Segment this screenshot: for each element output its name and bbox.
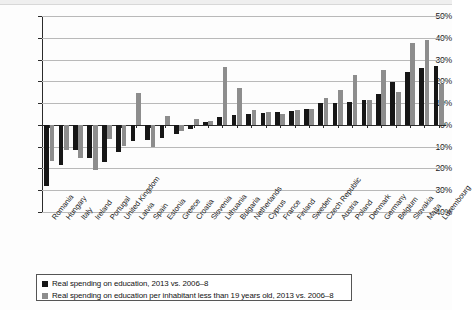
bar	[425, 40, 430, 125]
bar	[102, 125, 107, 162]
bar	[376, 94, 381, 124]
bar	[434, 66, 439, 125]
bar-group	[100, 16, 114, 212]
bar	[237, 88, 242, 125]
bar	[338, 90, 343, 125]
bar-group	[230, 16, 244, 212]
bar	[318, 103, 323, 125]
legend-item-gray: Real spending on education per inhabitan…	[42, 290, 346, 301]
bar	[353, 75, 358, 125]
bar	[203, 122, 208, 125]
bar	[179, 125, 184, 132]
bar	[78, 125, 83, 158]
bar	[367, 100, 372, 125]
bar-group	[172, 16, 186, 212]
bar	[160, 125, 165, 138]
bar	[289, 111, 294, 125]
bar-group	[244, 16, 258, 212]
bar	[131, 125, 136, 141]
chart-legend: Real spending on education, 2013 vs. 200…	[36, 274, 352, 301]
legend-swatch-icon	[42, 281, 48, 287]
bar	[44, 125, 49, 186]
top-rule	[0, 0, 452, 5]
bar	[93, 125, 98, 170]
bar-group	[215, 16, 229, 212]
bar-group	[388, 16, 402, 212]
bar	[50, 125, 55, 161]
bar	[136, 93, 141, 125]
bar	[252, 110, 257, 125]
bar	[266, 112, 271, 125]
legend-label: Real spending on education, 2013 vs. 200…	[52, 279, 208, 288]
bar-group	[374, 16, 388, 212]
bar	[304, 109, 309, 125]
bar-group	[359, 16, 373, 212]
bar	[223, 67, 228, 125]
bar-group	[201, 16, 215, 212]
bar-group	[302, 16, 316, 212]
bar	[295, 110, 300, 125]
bar	[381, 70, 386, 124]
bar-group	[71, 16, 85, 212]
bar-group	[316, 16, 330, 212]
bar	[145, 125, 150, 140]
bar	[217, 117, 222, 125]
bar	[122, 125, 127, 146]
bar	[107, 125, 112, 139]
bar	[246, 114, 251, 125]
bar	[232, 115, 237, 125]
bar-group	[403, 16, 417, 212]
bar	[309, 109, 314, 125]
bar	[333, 103, 338, 125]
legend-swatch-icon	[42, 293, 48, 299]
bar-group	[287, 16, 301, 212]
bar-series-layer	[42, 16, 446, 212]
bar	[208, 121, 213, 125]
bar	[439, 84, 444, 125]
bar	[188, 125, 193, 129]
bar-group	[273, 16, 287, 212]
bar	[324, 98, 329, 125]
bar-group	[331, 16, 345, 212]
bar	[405, 72, 410, 125]
x-axis-labels: RomaniaHungaryItalyIrelandPortugalUnited…	[42, 214, 446, 272]
bar	[165, 116, 170, 125]
bar-group	[157, 16, 171, 212]
bar-group	[258, 16, 272, 212]
bar	[410, 43, 415, 125]
bar	[261, 113, 266, 125]
bar	[396, 92, 401, 125]
bar-group	[56, 16, 70, 212]
bar-group	[114, 16, 128, 212]
bar	[116, 125, 121, 152]
bar	[390, 82, 395, 124]
bar	[64, 125, 69, 150]
bar	[151, 125, 156, 147]
bar	[194, 119, 199, 124]
bar	[419, 68, 424, 125]
bar	[347, 102, 352, 125]
bar-group	[186, 16, 200, 212]
bar-group	[417, 16, 431, 212]
bar	[73, 125, 78, 150]
bar-group	[432, 16, 446, 212]
bar	[87, 125, 92, 158]
bar-group	[85, 16, 99, 212]
bar	[174, 125, 179, 134]
legend-item-black: Real spending on education, 2013 vs. 200…	[42, 278, 346, 289]
bar	[362, 100, 367, 125]
bar	[275, 112, 280, 125]
bar	[280, 114, 285, 125]
bar-group	[42, 16, 56, 212]
legend-label: Real spending on education per inhabitan…	[52, 291, 333, 300]
bar-group	[129, 16, 143, 212]
bar	[59, 125, 64, 165]
